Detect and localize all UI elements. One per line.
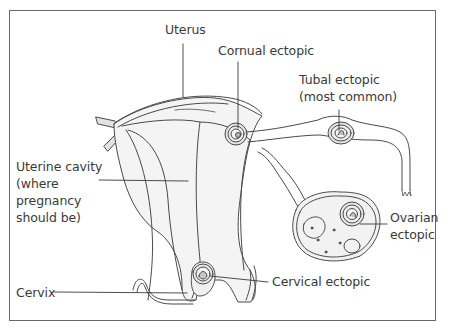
label-uterine-cavity-3: pregnancy (16, 193, 81, 209)
fallopian-tube (246, 116, 410, 190)
label-cornual-ectopic: Cornual ectopic (218, 43, 314, 59)
label-ovarian-ectopic: Ovarian (390, 210, 438, 226)
cervical-ectopic-sac (191, 262, 215, 296)
tubal-ectopic-sac (328, 122, 354, 144)
label-tubal-ectopic: Tubal ectopic (299, 72, 380, 88)
ovary (293, 192, 380, 261)
label-ovarian-ectopic-2: ectopic (390, 227, 435, 243)
label-uterine-cavity-4: should be) (16, 210, 81, 226)
ovarian-ectopic-sac (340, 202, 364, 226)
label-uterine-cavity: Uterine cavity (16, 159, 102, 175)
label-tubal-most-common: (most common) (299, 89, 397, 105)
label-uterus: Uterus (165, 22, 206, 38)
label-cervical-ectopic: Cervical ectopic (272, 274, 370, 290)
fimbriae (402, 190, 411, 196)
cornual-ectopic-sac (225, 123, 247, 145)
label-cervix: Cervix (16, 285, 55, 301)
label-uterine-cavity-2: (where (16, 176, 59, 192)
